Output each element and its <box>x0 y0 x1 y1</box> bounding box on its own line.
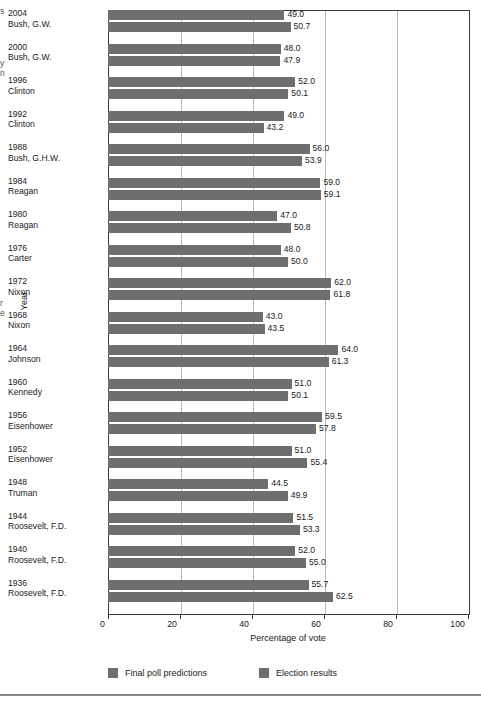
bar-row: 56.0 <box>108 144 468 154</box>
category-name: Roosevelt, F.D. <box>8 521 100 532</box>
bar-row: 59.0 <box>108 178 468 188</box>
bar-row: 57.8 <box>108 424 468 434</box>
legend-item: Election results <box>259 668 337 678</box>
bar-group: 1936Roosevelt, F.D.55.762.5 <box>108 580 468 614</box>
category-name: Roosevelt, F.D. <box>8 588 100 599</box>
y-axis-category-label: 1972Nixon <box>8 276 100 297</box>
bar-group: 1972Nixon62.061.8 <box>108 278 468 312</box>
bar-value-label: 51.5 <box>293 512 313 523</box>
bar-value-label: 61.3 <box>329 356 349 367</box>
bar-row: 53.3 <box>108 525 468 535</box>
x-tick-mark <box>468 614 469 619</box>
bar-group: 1940Roosevelt, F.D.52.055.0 <box>108 546 468 580</box>
bar-row: 50.1 <box>108 89 468 99</box>
chart-legend: Final poll predictionsElection results <box>108 668 337 678</box>
bar-row: 49.9 <box>108 491 468 501</box>
y-axis-category-label: 1996Clinton <box>8 75 100 96</box>
bar-value-label: 50.8 <box>291 222 311 233</box>
bar-row: 59.5 <box>108 412 468 422</box>
bar-row: 50.0 <box>108 257 468 267</box>
bar-value-label: 62.5 <box>333 591 353 602</box>
bar-row: 49.0 <box>108 111 468 121</box>
bar-row: 62.0 <box>108 278 468 288</box>
bar-row: 51.0 <box>108 379 468 389</box>
bar-row: 55.7 <box>108 580 468 590</box>
bar-row: 44.5 <box>108 479 468 489</box>
y-axis-category-label: 1956Eisenhower <box>8 410 100 431</box>
legend-swatch-icon <box>108 668 118 678</box>
legend-label: Election results <box>276 668 337 678</box>
bar-group: 1956Eisenhower59.557.8 <box>108 412 468 446</box>
x-tick-mark <box>180 614 181 619</box>
category-name: Reagan <box>8 186 100 197</box>
footer-rule <box>0 694 481 696</box>
x-axis-ticks: 020406080100 <box>108 614 468 630</box>
bar-election-result <box>108 156 302 166</box>
bar-election-result <box>108 324 265 334</box>
bar-final-poll-prediction <box>108 513 293 523</box>
bar-row: 49.0 <box>108 10 468 20</box>
bar-final-poll-prediction <box>108 111 284 121</box>
x-tick-mark <box>324 614 325 619</box>
bar-election-result <box>108 290 330 300</box>
bar-row: 61.3 <box>108 357 468 367</box>
bar-final-poll-prediction <box>108 446 292 456</box>
bar-final-poll-prediction <box>108 412 322 422</box>
bar-final-poll-prediction <box>108 44 281 54</box>
bar-value-label: 61.8 <box>330 289 350 300</box>
bar-group: 1976Carter48.050.0 <box>108 245 468 279</box>
bar-row: 43.5 <box>108 324 468 334</box>
bar-final-poll-prediction <box>108 77 295 87</box>
bar-value-label: 55.0 <box>306 557 326 568</box>
bar-value-label: 59.0 <box>320 177 340 188</box>
bar-group: 1996Clinton52.050.1 <box>108 77 468 111</box>
bar-final-poll-prediction <box>108 10 284 20</box>
category-year: 1980 <box>8 209 100 220</box>
bar-row: 55.4 <box>108 458 468 468</box>
bar-final-poll-prediction <box>108 278 331 288</box>
bar-rows: 2004Bush, G.W.49.050.72000Bush, G.W.48.0… <box>108 10 468 613</box>
x-tick-label: 80 <box>383 619 396 629</box>
bar-final-poll-prediction <box>108 546 295 556</box>
category-year: 1960 <box>8 377 100 388</box>
category-name: Truman <box>8 488 100 499</box>
legend-item: Final poll predictions <box>108 668 207 678</box>
category-year: 2000 <box>8 42 100 53</box>
bar-value-label: 44.5 <box>268 478 288 489</box>
bar-group: 1948Truman44.549.9 <box>108 479 468 513</box>
category-year: 1964 <box>8 343 100 354</box>
bar-election-result <box>108 525 300 535</box>
category-year: 1988 <box>8 142 100 153</box>
bar-row: 64.0 <box>108 345 468 355</box>
y-axis-category-label: 1988Bush, G.H.W. <box>8 142 100 163</box>
bar-value-label: 51.0 <box>292 445 312 456</box>
bar-election-result <box>108 223 291 233</box>
bar-chart: Year 2004Bush, G.W.49.050.72000Bush, G.W… <box>0 0 481 660</box>
y-axis-category-label: 1980Reagan <box>8 209 100 230</box>
y-axis-category-label: 1968Nixon <box>8 310 100 331</box>
category-year: 1968 <box>8 310 100 321</box>
bar-value-label: 48.0 <box>281 43 301 54</box>
bar-election-result <box>108 458 307 468</box>
bar-group: 1980Reagan47.050.8 <box>108 211 468 245</box>
bar-row: 52.0 <box>108 77 468 87</box>
bar-group: 2004Bush, G.W.49.050.7 <box>108 10 468 44</box>
y-axis-category-label: 1960Kennedy <box>8 377 100 398</box>
y-axis-category-label: 1944Roosevelt, F.D. <box>8 511 100 532</box>
bar-group: 1944Roosevelt, F.D.51.553.3 <box>108 513 468 547</box>
bar-row: 43.2 <box>108 123 468 133</box>
bar-row: 50.7 <box>108 22 468 32</box>
bar-election-result <box>108 56 280 66</box>
bar-value-label: 53.3 <box>300 524 320 535</box>
bar-row: 48.0 <box>108 44 468 54</box>
category-name: Kennedy <box>8 387 100 398</box>
bar-value-label: 49.0 <box>284 110 304 121</box>
category-name: Eisenhower <box>8 454 100 465</box>
bar-value-label: 50.7 <box>291 21 311 32</box>
y-axis-category-label: 1992Clinton <box>8 109 100 130</box>
bar-final-poll-prediction <box>108 245 281 255</box>
bar-value-label: 52.0 <box>295 76 315 87</box>
bar-value-label: 50.1 <box>288 88 308 99</box>
category-name: Roosevelt, F.D. <box>8 555 100 566</box>
category-name: Clinton <box>8 86 100 97</box>
